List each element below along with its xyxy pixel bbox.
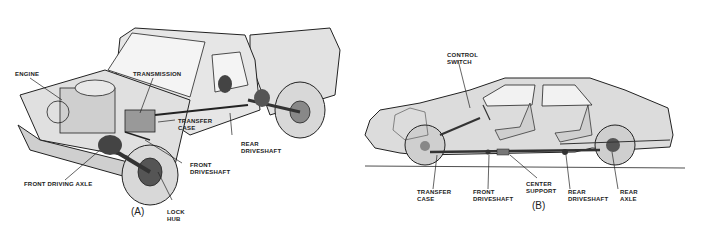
- label-rear-driveshaft-b: REAR DRIVESHAFT: [568, 189, 608, 202]
- label-front-driving-axle: FRONT DRIVING AXLE: [24, 181, 92, 188]
- label-transmission: TRANSMISSION: [133, 71, 181, 78]
- label-front-driveshaft-b: FRONT DRIVESHAFT: [473, 189, 513, 202]
- label-control-switch: CONTROL SWITCH: [447, 52, 478, 65]
- caption-b: (B): [532, 200, 545, 211]
- label-lock-hub: LOCK HUB: [167, 209, 185, 222]
- figure-a-truck-drawing: [0, 0, 350, 233]
- label-center-support: CENTER SUPPORT: [526, 181, 556, 194]
- caption-a: (A): [131, 206, 144, 217]
- label-transfer-case-b: TRANSFER CASE: [417, 189, 451, 202]
- label-rear-axle: REAR AXLE: [620, 189, 638, 202]
- label-engine: ENGINE: [15, 71, 39, 78]
- label-transfer-case: TRANSFER CASE: [178, 118, 212, 131]
- label-front-driveshaft: FRONT DRIVESHAFT: [190, 162, 230, 175]
- label-rear-driveshaft: REAR DRIVESHAFT: [241, 141, 281, 154]
